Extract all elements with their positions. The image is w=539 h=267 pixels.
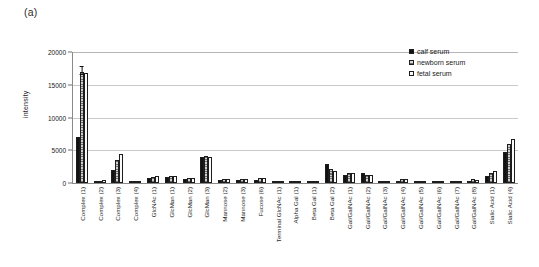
- y-tick-mark: [68, 117, 72, 118]
- x-label-cell: Gal/GalNAc (4): [393, 187, 411, 265]
- x-label-cell: Mannose (3): [233, 187, 251, 265]
- legend-swatch-icon: [409, 71, 414, 76]
- x-label-cell: Sialic Acid (4): [500, 187, 518, 265]
- x-tick-label: Gal/GalNAc (5): [417, 187, 424, 229]
- bar-fetal: [262, 178, 266, 183]
- y-tick-label: 20000: [48, 49, 66, 56]
- bar-group: [215, 52, 233, 183]
- legend-label: newborn serum: [417, 57, 465, 68]
- bar-fetal: [297, 181, 301, 183]
- x-tick-label: Beta Gal (2): [328, 187, 335, 220]
- x-tick-label: Gal/GalNAc (6): [434, 187, 441, 229]
- x-label-cell: Beta Gal (1): [304, 187, 322, 265]
- bar-group: [322, 52, 340, 183]
- bar-fetal: [333, 171, 337, 183]
- x-tick-label: Complex (1): [78, 187, 85, 221]
- y-tick-label: 15000: [48, 81, 66, 88]
- x-tick-label: Gal/GalNAc (2): [363, 187, 370, 229]
- bar-chart: 05000100001500020000 intensity Complex (…: [0, 0, 539, 267]
- x-label-cell: GlcMan (3): [198, 187, 216, 265]
- bar-group: [251, 52, 269, 183]
- bar-group: [180, 52, 198, 183]
- bar-group: [126, 52, 144, 183]
- bar-group: [233, 52, 251, 183]
- x-label-cell: GlcNAc (1): [144, 187, 162, 265]
- y-tick-mark: [68, 84, 72, 85]
- bar-group: [162, 52, 180, 183]
- x-label-cell: Mannose (2): [215, 187, 233, 265]
- x-tick-label: Gal/GalNAc (3): [381, 187, 388, 229]
- legend-label: calf serum: [417, 46, 449, 57]
- y-axis: 05000100001500020000: [30, 46, 72, 190]
- legend-label: fetal serum: [417, 68, 452, 79]
- bar-fetal: [511, 139, 515, 183]
- error-bar: [81, 66, 82, 75]
- x-tick-label: GlcMan (2): [185, 187, 192, 218]
- x-tick-label: Beta Gal (1): [310, 187, 317, 220]
- x-label-cell: Gal/GalNAc (7): [447, 187, 465, 265]
- bar-group: [376, 52, 394, 183]
- bar-fetal: [386, 181, 390, 183]
- x-tick-label: Mannose (3): [239, 187, 246, 222]
- x-tick-label: Gal/GalNAc (4): [399, 187, 406, 229]
- y-axis-label: intensity: [22, 91, 29, 118]
- x-tick-label: Complex (3): [114, 187, 121, 221]
- x-tick-label: Gal/GalNAc (1): [345, 187, 352, 229]
- x-tick-label: GlcMan (1): [167, 187, 174, 218]
- y-tick-label: 5000: [52, 147, 66, 154]
- bar-fetal: [119, 154, 123, 183]
- x-label-cell: Gal/GalNAc (3): [376, 187, 394, 265]
- x-label-cell: Gal/GalNAc (5): [411, 187, 429, 265]
- bar-group: [304, 52, 322, 183]
- legend-item-calf: calf serum: [409, 46, 465, 57]
- x-label-cell: GlcMan (1): [162, 187, 180, 265]
- bar-fetal: [226, 179, 230, 183]
- y-tick-mark: [68, 150, 72, 151]
- bar-fetal: [422, 181, 426, 183]
- x-label-cell: Complex (4): [126, 187, 144, 265]
- legend-item-fetal: fetal serum: [409, 68, 465, 79]
- legend-item-newborn: newborn serum: [409, 57, 465, 68]
- chart-legend: calf serumnewborn serumfetal serum: [409, 46, 465, 79]
- x-tick-label: Fucose (6): [256, 187, 263, 217]
- bar-fetal: [244, 179, 248, 183]
- bar-fetal: [315, 181, 319, 183]
- x-label-cell: Terminal GlcNAc (1): [269, 187, 287, 265]
- x-tick-label: GlcNAc (1): [150, 187, 157, 217]
- x-label-cell: Complex (3): [109, 187, 127, 265]
- x-tick-label: Terminal GlcNAc (1): [274, 187, 281, 242]
- y-tick-label: 10000: [48, 114, 66, 121]
- x-label-cell: Gal/GalNAc (1): [340, 187, 358, 265]
- bar-fetal: [102, 180, 106, 183]
- x-axis-labels: Complex (1)Complex (2)Complex (3)Complex…: [73, 187, 518, 265]
- legend-swatch-icon: [409, 49, 414, 54]
- bar-group: [482, 52, 500, 183]
- x-tick-label: Mannose (2): [221, 187, 228, 222]
- bar-fetal: [351, 173, 355, 183]
- bar-group: [465, 52, 483, 183]
- bar-fetal: [440, 181, 444, 183]
- bar-group: [144, 52, 162, 183]
- bar-group: [358, 52, 376, 183]
- x-tick-label: Gal/GalNAc (8): [470, 187, 477, 229]
- legend-swatch-icon: [409, 60, 414, 65]
- x-label-cell: Gal/GalNAc (6): [429, 187, 447, 265]
- x-tick-label: Alpha Gal (1): [292, 187, 299, 223]
- bar-fetal: [137, 181, 141, 183]
- bar-fetal: [404, 179, 408, 183]
- x-label-cell: Gal/GalNAc (2): [358, 187, 376, 265]
- x-tick-label: GlcMan (3): [203, 187, 210, 218]
- bar-group: [109, 52, 127, 183]
- bar-group: [287, 52, 305, 183]
- bar-fetal: [369, 175, 373, 183]
- x-tick-label: Sialic Acid (1): [488, 187, 495, 224]
- x-tick-label: Complex (2): [96, 187, 103, 221]
- bar-group: [340, 52, 358, 183]
- x-label-cell: GlcMan (2): [180, 187, 198, 265]
- bar-fetal: [84, 73, 88, 183]
- x-label-cell: Complex (2): [91, 187, 109, 265]
- y-tick-mark: [68, 183, 72, 184]
- bar-group: [500, 52, 518, 183]
- bar-fetal: [173, 176, 177, 183]
- bar-fetal: [458, 181, 462, 183]
